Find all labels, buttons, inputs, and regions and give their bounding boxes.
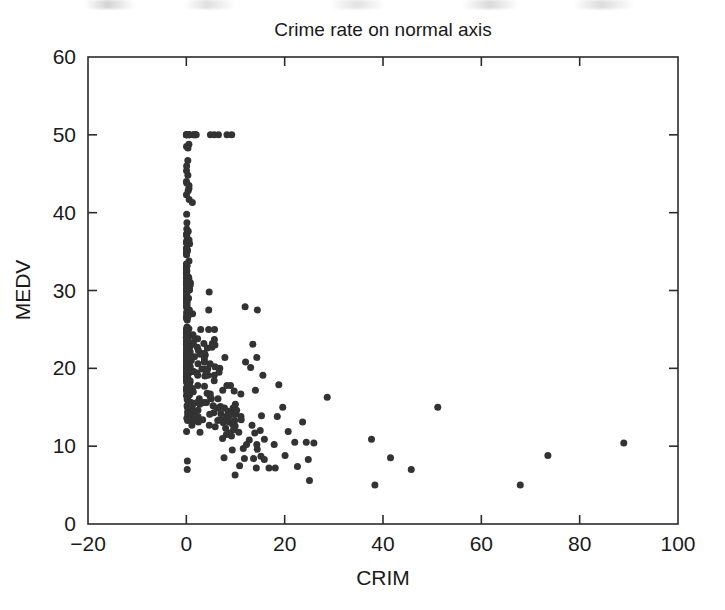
data-point [235,429,242,436]
data-point [254,306,261,313]
data-point [387,454,394,461]
y-tick-label: 20 [53,356,76,379]
data-point [207,360,214,367]
y-tick-label: 0 [64,512,76,535]
data-point [517,482,524,489]
data-point [183,286,190,293]
x-tick-label: 60 [470,532,493,555]
data-point [195,360,202,367]
data-point [242,303,249,310]
data-point [261,436,268,443]
data-point [183,219,190,226]
data-point [275,381,282,388]
y-tick-label: 50 [53,123,76,146]
x-axis-tick-labels: −20020406080100 [70,532,695,555]
data-point [257,427,264,434]
data-point [206,289,213,296]
crime-rate-scatter-figure: Crime rate on normal axis −2002040608010… [0,0,725,610]
data-point [211,372,218,379]
data-point [215,395,222,402]
data-point [241,455,248,462]
data-point [299,419,306,426]
data-point [210,402,217,409]
data-point [184,378,191,385]
data-point [253,354,260,361]
data-point [185,182,192,189]
x-axis-title: CRIM [356,566,410,589]
data-point [184,457,191,464]
data-point [215,131,222,138]
x-tick-label: 100 [660,532,695,555]
data-point [194,372,201,379]
data-point [249,341,256,348]
y-axis-title: MEDV [11,260,34,321]
data-point [236,462,243,469]
data-point [324,394,331,401]
y-tick-label: 40 [53,201,76,224]
data-point [201,383,208,390]
data-point [211,326,218,333]
data-point [183,360,190,367]
data-point [368,436,375,443]
y-axis-tick-labels: 0102030405060 [53,45,76,535]
data-point [194,407,201,414]
data-point [206,411,213,418]
data-point [221,354,228,361]
data-point [252,387,259,394]
data-point [205,306,212,313]
x-tick-label: 80 [568,532,591,555]
data-point [246,436,253,443]
data-point [184,390,191,397]
data-point [305,456,312,463]
scatter-plot-svg: Crime rate on normal axis −2002040608010… [0,0,725,610]
data-point [195,419,202,426]
data-point [183,266,190,273]
data-point [221,405,228,412]
data-point [233,407,240,414]
data-point [203,368,210,375]
plot-frame [88,57,678,524]
data-point [223,382,230,389]
data-point [186,196,193,203]
data-point [620,440,627,447]
x-tick-label: 20 [273,532,296,555]
data-point [274,413,281,420]
data-point [223,131,230,138]
data-point [242,359,249,366]
data-point [229,447,236,454]
data-point [434,404,441,411]
data-point [291,439,298,446]
data-point [238,416,245,423]
data-point [271,441,278,448]
data-point [219,435,226,442]
data-point [214,417,221,424]
data-point [183,162,190,169]
data-point [253,464,260,471]
data-point [183,131,190,138]
data-point [184,402,191,409]
data-point-group [183,131,627,488]
data-point [212,423,219,430]
data-point [249,422,256,429]
data-point [272,464,279,471]
data-point [232,471,239,478]
data-point [207,391,214,398]
data-point [279,404,286,411]
data-point [294,463,301,470]
data-point [371,482,378,489]
data-point [201,355,208,362]
data-point [221,454,228,461]
data-point [193,131,200,138]
data-point [254,446,261,453]
data-point [183,230,190,237]
data-point [226,429,233,436]
data-point [285,428,292,435]
data-point [197,326,204,333]
data-point [247,364,254,371]
data-point [303,439,310,446]
data-point [183,428,190,435]
data-point [258,412,265,419]
data-point [408,466,415,473]
data-point [206,422,213,429]
y-tick-label: 60 [53,45,76,68]
